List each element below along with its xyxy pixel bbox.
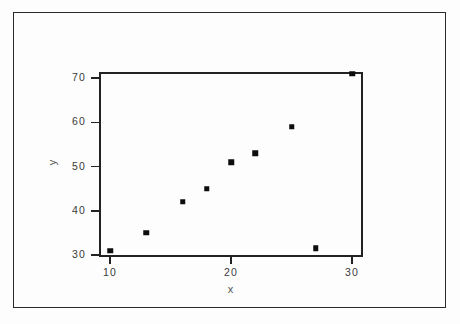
data-point (252, 150, 258, 156)
y-tick (91, 77, 99, 79)
data-point (144, 230, 150, 236)
y-tick-label: 30 (0, 248, 91, 260)
y-tick-label: 60 (0, 115, 91, 127)
plot-frame-right (361, 72, 363, 257)
data-point (313, 246, 319, 252)
x-axis-title: x (228, 283, 235, 295)
y-tick-label: 70 (0, 71, 91, 83)
data-point (107, 248, 113, 254)
plot-frame-left (99, 72, 101, 257)
x-tick-label: 30 (345, 266, 359, 278)
x-tick (351, 256, 353, 264)
y-tick (91, 122, 99, 124)
y-tick (91, 210, 99, 212)
y-tick (91, 166, 99, 168)
x-tick (230, 256, 232, 264)
data-point (349, 71, 355, 77)
data-point (289, 124, 295, 130)
data-point (204, 186, 210, 192)
data-point (180, 199, 186, 205)
y-tick (91, 254, 99, 256)
y-tick-label: 40 (0, 204, 91, 216)
data-point (228, 159, 234, 165)
plot-frame-top (99, 72, 363, 74)
x-tick-label: 20 (224, 266, 238, 278)
x-tick-label: 10 (103, 266, 117, 278)
scatter-plot: 3040506070 102030 x y (0, 0, 460, 324)
x-tick (109, 256, 111, 264)
chart-page: 3040506070 102030 x y (0, 0, 460, 324)
y-axis-title: y (46, 159, 58, 166)
